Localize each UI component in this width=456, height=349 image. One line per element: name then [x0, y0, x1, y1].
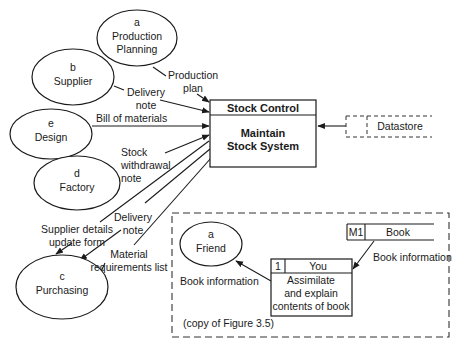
inset-flow-right [353, 241, 374, 269]
flow-label-delivery-note-2: Deliverynote [114, 211, 153, 236]
entity-label: Purchasing [36, 284, 89, 296]
entity-letter: e [48, 117, 54, 129]
entity-design[interactable]: e Design [10, 109, 92, 159]
process-line-2: and explain [284, 287, 338, 299]
flow-label-stock-withdrawal: Stockwithdrawalnote [120, 146, 171, 184]
datastore-id: M1 [349, 226, 364, 238]
entity-letter: c [59, 270, 64, 282]
flow-label-supplier-details: Supplier detailsupdate form [41, 223, 113, 248]
process-title: Maintain [241, 127, 286, 139]
process-stock-control[interactable]: Stock Control Maintain Stock System [210, 100, 316, 167]
entity-label: Factory [59, 181, 95, 193]
flow-label-delivery-note-1: Deliverynote [127, 86, 166, 111]
datastore-label: Datastore [377, 120, 423, 132]
process-line-1: Assimilate [287, 274, 335, 286]
inset-flow-label-left: Book information [180, 275, 259, 287]
process-line-3: contents of book [272, 300, 350, 312]
entity-label-2: Planning [117, 43, 158, 55]
entity-label: Design [35, 131, 68, 143]
data-flow-diagram: a Production Planning b Supplier e Desig… [0, 0, 456, 349]
entity-letter: a [208, 228, 214, 240]
flow-label-material-requirements: Materialrequirements list [90, 248, 167, 273]
process-id: 1 [275, 260, 281, 272]
inset-entity-friend[interactable]: a Friend [180, 222, 242, 266]
entity-label: Supplier [54, 75, 93, 87]
datastore-label: Book [386, 226, 411, 238]
process-header: You [309, 260, 327, 272]
process-title-2: Stock System [227, 140, 299, 152]
flow-label-bill-of-materials: Bill of materials [96, 112, 167, 124]
entity-letter: b [70, 61, 76, 73]
entity-factory[interactable]: d Factory [34, 156, 120, 210]
entity-supplier[interactable]: b Supplier [32, 49, 114, 105]
inset-flow-label-right: Book information [373, 251, 452, 263]
flow-label-production-plan: Productionplan [168, 69, 218, 94]
datastore[interactable]: Datastore [346, 116, 432, 137]
entity-letter: d [74, 167, 80, 179]
entity-label: Friend [196, 242, 226, 254]
entity-letter: a [134, 16, 140, 28]
inset-figure: a Friend Book information 1 You Assimila… [172, 213, 452, 337]
entity-production-planning[interactable]: a Production Planning [97, 10, 177, 66]
entity-label: Production [112, 30, 162, 42]
process-header: Stock Control [227, 102, 299, 114]
inset-caption: (copy of Figure 3.5) [183, 317, 274, 329]
inset-datastore-book[interactable]: M1 Book [347, 224, 434, 240]
inset-process-you[interactable]: 1 You Assimilate and explain contents of… [271, 259, 352, 316]
